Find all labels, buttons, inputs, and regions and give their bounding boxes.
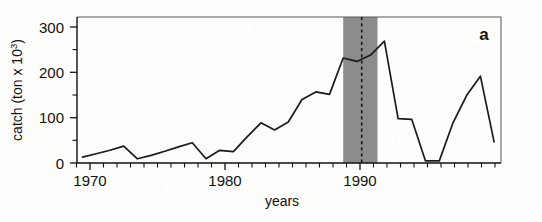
- chart-canvas: 0 100 200 300: [0, 0, 542, 222]
- figure-panel-a: 0 100 200 300: [0, 0, 542, 222]
- y-axis-title-close: ): [9, 39, 25, 44]
- x-tick-label-1970: 1970: [73, 172, 106, 189]
- x-axis-ticks: [77, 163, 496, 170]
- panel-label-a: a: [479, 25, 489, 44]
- y-tick-label-0: 0: [56, 155, 64, 172]
- y-tick-label-100: 100: [39, 109, 64, 126]
- shaded-period-band: [343, 17, 377, 163]
- y-axis-title-main: catch (ton x 10: [9, 49, 25, 141]
- catch-series-line: [83, 41, 495, 161]
- x-tick-label-1980: 1980: [208, 172, 241, 189]
- x-axis-title: years: [265, 193, 299, 209]
- y-tick-label-300: 300: [39, 19, 64, 36]
- x-tick-label-1990: 1990: [343, 172, 376, 189]
- y-axis-ticks: [70, 27, 77, 163]
- y-axis-title: catch (ton x 103): [8, 39, 26, 141]
- y-tick-label-200: 200: [39, 64, 64, 81]
- svg-text:catch (ton x 103): catch (ton x 103): [8, 39, 26, 141]
